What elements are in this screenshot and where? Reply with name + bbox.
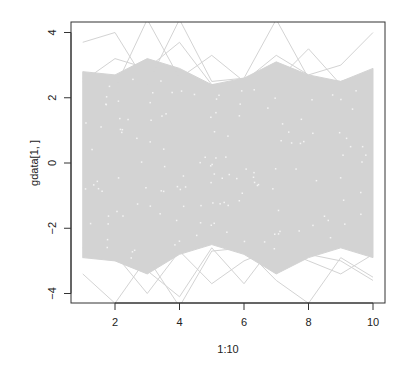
- band-speckle: [145, 187, 147, 189]
- band-speckle: [239, 200, 241, 202]
- band-speckle: [177, 186, 179, 188]
- band-speckle: [136, 138, 138, 140]
- y-tick-label: −2: [46, 222, 58, 235]
- band-speckle: [245, 168, 247, 170]
- band-speckle: [204, 157, 206, 159]
- band-speckle: [218, 95, 220, 97]
- band-speckle: [93, 184, 95, 186]
- band-speckle: [274, 97, 276, 99]
- band-speckle: [226, 231, 228, 233]
- band-speckle: [343, 199, 345, 201]
- band-speckle: [253, 172, 255, 174]
- band-speckle: [221, 178, 223, 180]
- band-speckle: [254, 89, 256, 91]
- band-speckle: [85, 122, 87, 124]
- band-speckle: [360, 214, 362, 216]
- band-speckle: [282, 123, 284, 125]
- band-speckle: [121, 132, 123, 134]
- band-speckle: [340, 177, 342, 179]
- band-speckle: [267, 107, 269, 109]
- band-speckle: [179, 240, 181, 242]
- band-speckle: [278, 210, 280, 212]
- band-speckle: [215, 157, 217, 159]
- band-speckle: [223, 202, 225, 204]
- band-speckle: [303, 141, 305, 143]
- band-speckle: [312, 133, 314, 135]
- band-speckle: [330, 237, 332, 239]
- x-tick-label: 10: [367, 316, 379, 328]
- band-speckle: [150, 205, 152, 207]
- band-speckle: [141, 161, 143, 163]
- band-speckle: [165, 113, 167, 115]
- band-speckle: [116, 211, 118, 213]
- band-speckle: [183, 206, 185, 208]
- band-speckle: [227, 135, 229, 137]
- band-speckle: [291, 142, 293, 144]
- band-speckle: [194, 94, 196, 96]
- band-speckle: [91, 149, 93, 151]
- band-speckle: [279, 231, 281, 233]
- band-speckle: [219, 203, 221, 205]
- band-speckle: [324, 215, 326, 217]
- band-speckle: [161, 190, 163, 192]
- y-tick-label: −4: [46, 287, 58, 300]
- plot-area: [83, 19, 373, 306]
- series-band: [83, 59, 373, 274]
- band-speckle: [210, 165, 212, 167]
- band-speckle: [118, 177, 120, 179]
- band-speckle: [181, 90, 183, 92]
- band-speckle: [150, 120, 152, 122]
- band-speckle: [216, 98, 218, 100]
- band-speckle: [176, 220, 178, 222]
- band-speckle: [278, 233, 280, 235]
- band-speckle: [100, 126, 102, 128]
- band-speckle: [295, 168, 297, 170]
- band-speckle: [132, 251, 134, 253]
- band-speckle: [118, 100, 120, 102]
- band-speckle: [134, 250, 136, 252]
- band-speckle: [122, 215, 124, 217]
- band-speckle: [352, 108, 354, 110]
- band-speckle: [174, 244, 176, 246]
- band-speckle: [327, 220, 329, 222]
- y-tick-label: 0: [46, 160, 58, 166]
- band-speckle: [200, 205, 202, 207]
- band-speckle: [342, 154, 344, 156]
- band-speckle: [107, 239, 109, 241]
- band-speckle: [132, 79, 134, 81]
- band-speckle: [300, 143, 302, 145]
- x-tick-label: 2: [112, 316, 118, 328]
- band-speckle: [239, 115, 241, 117]
- band-speckle: [332, 94, 334, 96]
- y-axis: −4−2024: [46, 29, 71, 299]
- band-speckle: [340, 99, 342, 101]
- band-speckle: [159, 213, 161, 215]
- band-speckle: [241, 90, 243, 92]
- band-speckle: [119, 118, 121, 120]
- band-speckle: [108, 215, 110, 217]
- band-speckle: [122, 129, 124, 131]
- band-speckle: [275, 168, 277, 170]
- band-speckle: [365, 154, 367, 156]
- band-speckle: [105, 103, 107, 105]
- band-speckle: [210, 117, 212, 119]
- band-speckle: [361, 161, 363, 163]
- band-speckle: [264, 241, 266, 243]
- y-axis-title: gdata[1, ]: [28, 140, 40, 186]
- band-speckle: [242, 192, 244, 194]
- line-chart: 246810 −4−2024 1:10 gdata[1, ]: [0, 0, 405, 369]
- band-speckle: [106, 96, 108, 98]
- band-speckle: [161, 115, 163, 117]
- y-tick-label: 2: [46, 95, 58, 101]
- band-speckle: [211, 224, 213, 226]
- band-speckle: [163, 148, 165, 150]
- band-speckle: [254, 182, 256, 184]
- band-speckle: [200, 222, 202, 224]
- band-speckle: [131, 257, 133, 259]
- band-speckle: [212, 202, 214, 204]
- band-speckle: [213, 223, 215, 225]
- x-axis: 246810: [112, 303, 379, 328]
- band-speckle: [360, 192, 362, 194]
- band-speckle: [171, 92, 173, 94]
- band-speckle: [109, 86, 111, 88]
